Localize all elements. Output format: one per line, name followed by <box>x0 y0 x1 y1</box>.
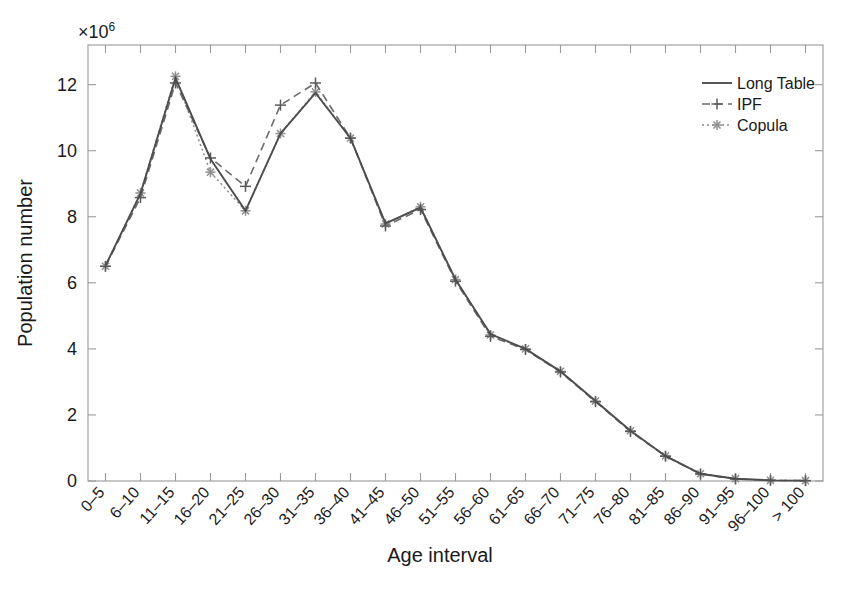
y-tick-label: 2 <box>67 405 77 425</box>
x-tick-label: 31–35 <box>275 484 317 529</box>
x-tick-label: 51–55 <box>415 484 457 529</box>
x-tick-label: 21–25 <box>205 484 247 529</box>
x-tick-label: 81–85 <box>625 484 667 529</box>
x-tick-label: 41–45 <box>345 484 387 529</box>
x-tick-label: 56–60 <box>450 484 492 529</box>
chart-legend: Long TableIPFCopula <box>702 75 815 134</box>
x-axis-title: Age interval <box>387 544 493 566</box>
x-tick-label: 66–70 <box>520 484 562 529</box>
x-tick-label: 76–80 <box>590 484 632 529</box>
x-tick-label: 11–15 <box>136 484 178 528</box>
x-axis: 0–56–1011–1516–2021–2526–3031–3536–4041–… <box>77 45 808 535</box>
x-tick-label: 0–5 <box>77 484 108 515</box>
legend-label: IPF <box>737 96 762 113</box>
y-tick-label: 10 <box>57 141 77 161</box>
legend-label: Long Table <box>737 75 815 92</box>
series-markers-ipf <box>100 77 811 486</box>
x-tick-label: 86–90 <box>660 484 702 529</box>
y-tick-label: 0 <box>67 471 77 491</box>
x-tick-label: 26–30 <box>240 484 282 529</box>
data-series-group <box>100 71 811 486</box>
plot-frame <box>88 45 823 481</box>
series-line-long-table <box>106 78 806 481</box>
x-tick-label: 71–75 <box>555 484 597 529</box>
x-tick-label: 16–20 <box>170 484 212 529</box>
y-axis-title: Population number <box>14 179 36 347</box>
x-tick-label: 61–65 <box>485 484 527 529</box>
legend-label: Copula <box>737 117 788 134</box>
x-tick-label: 46–50 <box>380 484 422 529</box>
y-tick-label: 8 <box>67 207 77 227</box>
y-tick-label: 6 <box>67 273 77 293</box>
x-tick-label: 36–40 <box>310 484 352 529</box>
y-tick-label: 12 <box>57 75 77 95</box>
y-axis-multiplier: ×106 <box>78 20 116 42</box>
chart-svg: ×106 024681012 0–56–1011–1516–2021–2526–… <box>0 0 861 589</box>
population-age-chart: ×106 024681012 0–56–1011–1516–2021–2526–… <box>0 0 861 589</box>
x-tick-label: > 100 <box>768 484 808 526</box>
y-tick-label: 4 <box>67 339 77 359</box>
y-axis: 024681012 <box>57 75 823 491</box>
